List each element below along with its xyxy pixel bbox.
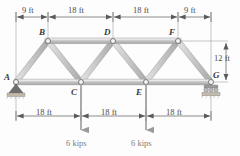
- truss-drawing-canvas: [0, 0, 240, 156]
- joint-label-B: B: [39, 27, 45, 37]
- member-CD: [79, 39, 115, 84]
- joint-label-C: C: [71, 87, 77, 97]
- joint-label-A: A: [4, 72, 10, 82]
- dim-bottom-3: 18 ft: [166, 107, 182, 117]
- dim-vertical-height: 12 ft: [214, 53, 230, 63]
- member-AB: [14, 39, 50, 84]
- dim-top-4: 9 ft: [184, 5, 196, 15]
- joint-label-G: G: [213, 70, 220, 80]
- member-FG: [176, 39, 213, 84]
- joint-label-D: D: [104, 27, 111, 37]
- dim-bottom-1: 18 ft: [36, 107, 52, 117]
- top-dimension-line: [16, 12, 211, 22]
- roller-support-G: [202, 85, 221, 98]
- joint-F: [176, 39, 181, 44]
- joint-D: [111, 39, 116, 44]
- dim-top-1: 9 ft: [22, 5, 34, 15]
- joint-G: [209, 80, 214, 85]
- joint-C: [79, 80, 84, 85]
- dim-bottom-2: 18 ft: [101, 107, 117, 117]
- truss-members: [14, 38, 213, 85]
- member-bottom-chord-ACEG: [14, 79, 212, 85]
- load-label-C: 6 kips: [66, 138, 87, 148]
- load-label-E: 6 kips: [131, 138, 152, 148]
- dim-top-3: 18 ft: [133, 5, 149, 15]
- truss-diagram-figure: A B C D E F G 9 ft 18 ft 18 ft 9 ft 18 f…: [0, 0, 240, 156]
- member-EF: [144, 39, 180, 84]
- member-DE: [111, 39, 148, 84]
- member-BC: [46, 39, 83, 84]
- joint-E: [144, 80, 149, 85]
- dim-top-2: 18 ft: [68, 5, 84, 15]
- pin-support-A: [7, 84, 26, 99]
- joint-label-E: E: [136, 87, 142, 97]
- joint-B: [46, 39, 51, 44]
- joint-label-F: F: [169, 27, 175, 37]
